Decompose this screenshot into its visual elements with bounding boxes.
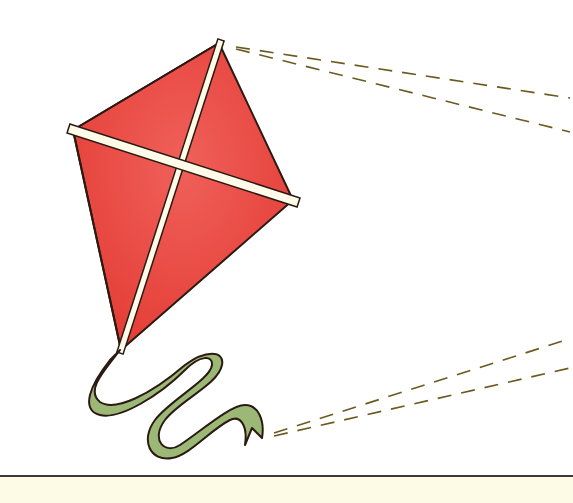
flight-lines-top [236,47,570,132]
flight-lines-bottom [274,340,570,436]
kite-drawing [0,0,573,503]
ground-strip [0,477,573,503]
kite-illustration [0,0,573,503]
kite-sail [73,43,293,350]
ribbon-tail [89,350,263,458]
